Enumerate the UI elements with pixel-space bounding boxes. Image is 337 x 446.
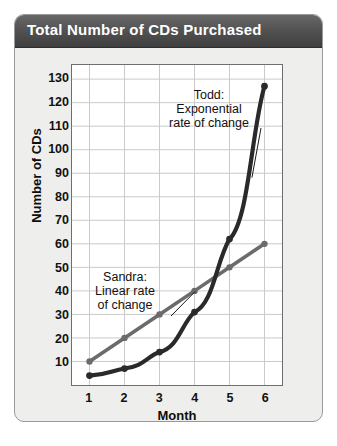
x-tick-label: 5	[215, 391, 245, 405]
chart-body: Number of CDs 10203040506070809010011012…	[15, 48, 323, 422]
x-tick-label: 1	[74, 391, 104, 405]
x-axis-ticks: 123456	[71, 391, 283, 409]
x-tick-label: 6	[250, 391, 280, 405]
chart-title-bar: Total Number of CDs Purchased	[15, 15, 322, 48]
x-tick-label: 2	[109, 391, 139, 405]
todd-annotation: Todd: Exponential rate of change	[153, 88, 265, 130]
x-tick-label: 3	[144, 391, 174, 405]
sandra-annotation: Sandra: Linear rate of change	[73, 270, 177, 312]
x-axis-label: Month	[71, 408, 283, 422]
chart-title: Total Number of CDs Purchased	[27, 21, 262, 38]
x-tick-label: 4	[180, 391, 210, 405]
chart-card: Total Number of CDs Purchased Number of …	[14, 14, 323, 422]
